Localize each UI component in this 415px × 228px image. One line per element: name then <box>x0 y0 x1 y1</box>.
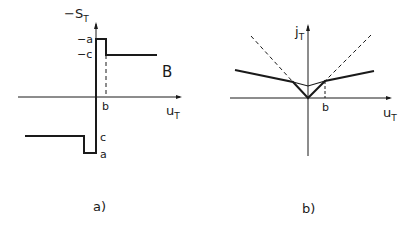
caption-b: b) <box>302 201 315 216</box>
caption-a: a) <box>93 199 106 214</box>
tick-c: c <box>100 131 106 144</box>
y-axis-label: jT <box>294 24 305 42</box>
x-axis-label: uT <box>383 105 397 123</box>
tick-neg-c: −c <box>77 48 92 61</box>
curve-j <box>235 70 374 98</box>
tick-a: a <box>100 148 107 161</box>
x-axis-label: uT <box>166 103 180 121</box>
panel-a: −ST −a −c B b uT c a a) <box>18 6 182 214</box>
y-axis-label: −ST <box>64 6 89 24</box>
x-axis-arrow-icon <box>176 95 182 99</box>
panel-b: jT b uT b) <box>230 24 397 216</box>
x-axis-arrow-icon <box>386 96 392 100</box>
region-label-b: B <box>162 63 172 81</box>
tick-neg-a: −a <box>77 33 93 46</box>
y-axis-arrow-icon <box>94 22 98 29</box>
figure: −ST −a −c B b uT c a a) jT b uT b) <box>0 0 415 228</box>
tick-b: b <box>322 101 329 114</box>
dashed-right <box>325 35 371 81</box>
y-axis-arrow-icon <box>306 24 310 31</box>
tick-b: b <box>102 100 109 113</box>
